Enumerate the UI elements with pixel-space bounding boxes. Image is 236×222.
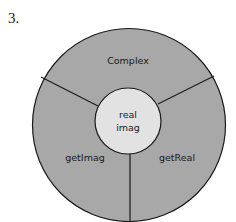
inner-circle [95,88,161,154]
object-diagram: Complex getImag getReal real imag [0,0,236,222]
segment-label-getimag: getImag [65,152,105,163]
inner-label-real: real [119,109,137,120]
inner-label-imag: imag [116,122,140,133]
segment-label-complex: Complex [107,55,149,66]
segment-label-getreal: getReal [159,152,195,163]
